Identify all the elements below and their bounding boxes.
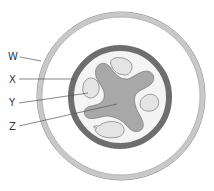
label-y: Y: [8, 97, 16, 108]
label-w: W: [8, 51, 18, 62]
root-cross-section-diagram: W X Y Z: [0, 0, 214, 191]
leader-line-w: [20, 57, 41, 61]
phloem-left: [83, 78, 99, 98]
label-z: Z: [9, 121, 16, 132]
label-x: X: [9, 74, 16, 85]
